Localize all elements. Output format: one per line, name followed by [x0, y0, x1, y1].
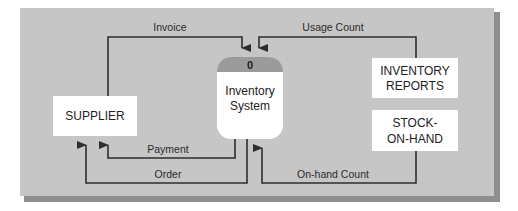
- process-label-line2: System: [230, 99, 270, 113]
- process-number: 0: [247, 59, 253, 71]
- entity-inventory-reports: INVENTORY REPORTS: [372, 58, 458, 98]
- flow-label-usage-count: Usage Count: [302, 21, 363, 33]
- process-label-line1: Inventory: [225, 84, 274, 98]
- flow-label-payment: Payment: [147, 143, 189, 155]
- flow-label-order: Order: [155, 168, 182, 180]
- entity-supplier-label: SUPPLIER: [65, 109, 125, 123]
- context-diagram: Invoice Usage Count Payment Order On-han…: [0, 0, 518, 211]
- entity-stock-on-hand-line2: ON-HAND: [387, 132, 443, 146]
- entity-inventory-reports-line1: INVENTORY: [380, 64, 450, 78]
- entity-supplier: SUPPLIER: [53, 96, 137, 136]
- entity-inventory-reports-line2: REPORTS: [386, 79, 444, 93]
- entity-stock-on-hand: STOCK- ON-HAND: [372, 110, 458, 151]
- flow-label-invoice: Invoice: [153, 21, 186, 33]
- flow-label-on-hand-count: On-hand Count: [297, 168, 369, 180]
- process-inventory-system: 0 Inventory System: [217, 57, 283, 139]
- entity-stock-on-hand-line1: STOCK-: [392, 116, 437, 130]
